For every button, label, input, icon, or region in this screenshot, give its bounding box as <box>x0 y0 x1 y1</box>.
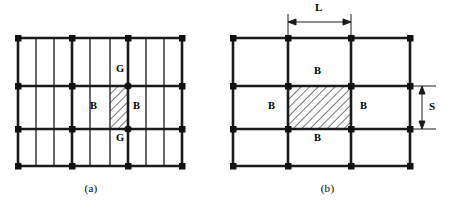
label-beam-left-b: B <box>268 101 275 112</box>
dimension-span-l <box>288 14 351 40</box>
label-beam-top-b: B <box>314 66 321 77</box>
girder-lines-vertical-a <box>18 38 182 166</box>
joist-lines-a <box>36 38 164 166</box>
label-girder-bottom-a: G <box>116 133 124 144</box>
hatched-bay-a <box>110 86 128 129</box>
label-beam-right-a: B <box>133 101 140 112</box>
girder-lines-horizontal-a <box>18 38 182 166</box>
caption-panel-a: (a) <box>0 182 204 194</box>
dimension-label-s: S <box>429 101 435 112</box>
label-beam-bottom-b: B <box>314 133 321 144</box>
panel-a: G G B B (a) <box>0 0 226 222</box>
panel-b: B B B B L S (b) <box>226 0 453 222</box>
label-beam-right-b: B <box>360 101 367 112</box>
label-beam-left-a: B <box>90 101 97 112</box>
figure-root: G G B B (a) <box>0 0 453 222</box>
column-nodes-a <box>15 35 186 170</box>
dimension-label-l: L <box>315 2 322 13</box>
label-girder-top-a: G <box>116 64 124 75</box>
hatched-bay-b <box>288 86 351 129</box>
caption-panel-b: (b) <box>214 182 441 194</box>
